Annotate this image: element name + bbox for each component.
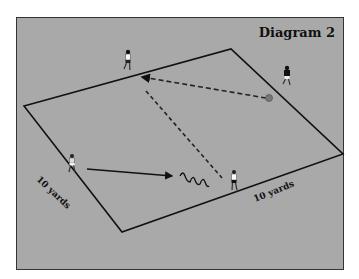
player-left-icon (69, 154, 75, 172)
bottom-side-label: 10 yards (252, 179, 295, 204)
player-bottom-icon (232, 170, 238, 190)
left-side-label: 10 yards (35, 174, 73, 211)
dribble-path (180, 173, 209, 187)
player-right-icon (283, 66, 290, 85)
field-diagram: 10 yards 10 yards (0, 0, 359, 279)
ball-icon (266, 95, 273, 102)
field-boundary (24, 49, 343, 232)
run-dashed-line (146, 91, 222, 178)
player-top-icon (124, 50, 131, 70)
pass-arrow (142, 77, 266, 98)
run-solid-arrow (87, 169, 172, 176)
